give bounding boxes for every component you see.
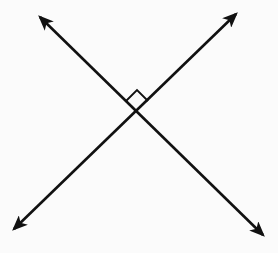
perpendicular-lines-diagram bbox=[0, 0, 278, 253]
background bbox=[0, 0, 278, 253]
